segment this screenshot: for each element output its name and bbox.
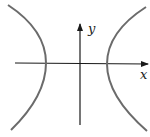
hyperbola-diagram: y x — [0, 0, 150, 137]
hyperbola-left-branch — [8, 5, 46, 130]
y-axis-label: y — [87, 21, 96, 36]
x-axis — [15, 63, 148, 64]
x-axis-label: x — [140, 67, 148, 82]
